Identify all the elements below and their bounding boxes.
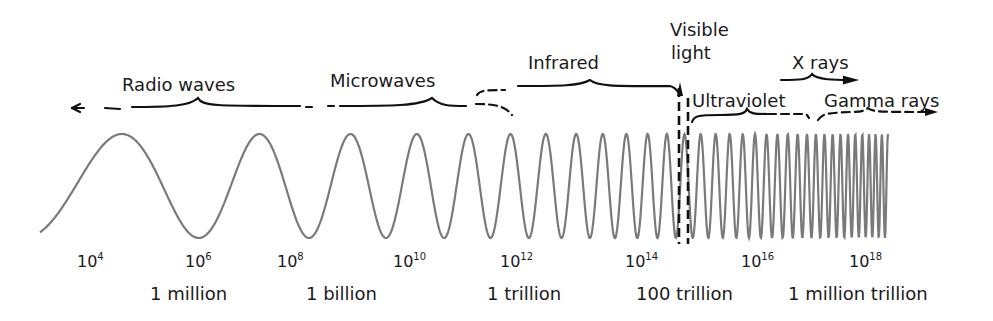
band-label-gamma: Gamma rays [824,91,939,111]
microwave-bracket [328,98,466,106]
band-label-infrared: Infrared [528,53,599,73]
spectrum-artwork [0,0,993,321]
microwave-infrared-transition [476,90,512,115]
radio-bracket [72,98,312,112]
band-label-visible-line1: Visible [670,20,729,40]
band-label-xray: X rays [792,53,849,73]
freq-label-100-trillion: 100 trillion [636,284,733,304]
tick-1e10: 1010 [393,248,426,271]
band-label-visible-line2: light [671,43,711,63]
em-wave [40,134,888,238]
band-label-microwave: Microwaves [330,71,435,91]
tick-1e8: 108 [277,248,304,271]
band-label-ultraviolet: Ultraviolet [692,91,785,111]
freq-label-million: 1 million [150,284,227,304]
freq-label-billion: 1 billion [306,284,377,304]
infrared-bracket [518,80,678,92]
tick-1e18: 1018 [849,248,882,271]
xray-bracket [781,74,855,83]
tick-1e4: 104 [77,248,104,271]
tick-1e12: 1012 [500,248,533,271]
tick-1e16: 1016 [741,248,774,271]
em-spectrum-diagram: Radio waves Microwaves Infrared Visible … [0,0,993,321]
tick-1e6: 106 [185,248,212,271]
tick-1e14: 1014 [625,248,658,271]
freq-label-trillion: 1 trillion [487,284,561,304]
band-label-radio: Radio waves [122,75,235,95]
freq-label-million-trillion: 1 million trillion [788,284,928,304]
